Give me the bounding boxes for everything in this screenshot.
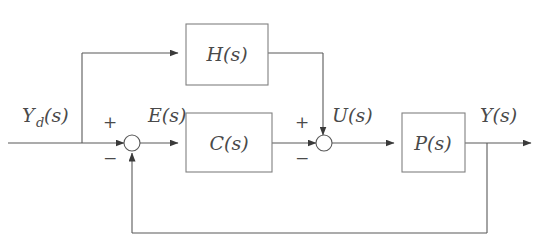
summing-junction-control[interactable] [316, 135, 332, 151]
block-diagram-canvas: H(s) C(s) P(s) + − + − Y d (s) E(s) U(s)… [0, 0, 543, 251]
signal-label-reference: Y d (s) [22, 104, 69, 130]
summing-junction-error[interactable] [124, 135, 140, 151]
block-p-label: P(s) [413, 132, 451, 154]
signal-label-output: Y(s) [480, 104, 517, 126]
reference-label-arg: (s) [44, 104, 69, 126]
sum-error-minus-sign: − [103, 148, 117, 168]
reference-label-base: Y [22, 104, 37, 126]
signal-label-control: U(s) [332, 104, 373, 126]
block-h-label: H(s) [205, 43, 247, 65]
block-c-label: C(s) [209, 132, 248, 154]
block-diagram: H(s) C(s) P(s) + − + − Y d (s) E(s) U(s)… [0, 0, 543, 251]
sum-control-minus-sign: − [295, 148, 309, 168]
sum-error-plus-sign: + [103, 112, 117, 132]
signal-label-error: E(s) [147, 104, 186, 126]
sum-control-plus-sign: + [295, 112, 309, 132]
